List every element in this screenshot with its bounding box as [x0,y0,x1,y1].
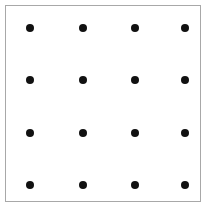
grid-dot [26,24,34,32]
grid-dot [131,129,139,137]
grid-dot [26,76,34,84]
figure-canvas [0,0,211,216]
grid-dot [79,129,87,137]
grid-dot [131,24,139,32]
grid-dot [79,24,87,32]
grid-dot [181,24,189,32]
grid-dot [181,181,189,189]
grid-dot [26,129,34,137]
grid-dot [131,76,139,84]
grid-dot [181,76,189,84]
grid-dot [79,76,87,84]
grid-dot [79,181,87,189]
grid-dot [181,129,189,137]
grid-dot [26,181,34,189]
bounding-rectangle [5,5,201,202]
grid-dot [131,181,139,189]
